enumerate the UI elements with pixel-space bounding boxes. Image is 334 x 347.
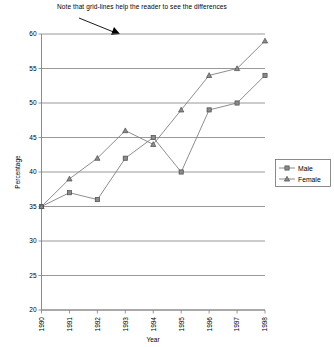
chart-legend[interactable]: MaleFemale bbox=[276, 160, 331, 187]
x-tick-label: 1995 bbox=[178, 317, 185, 332]
y-tick-label: 60 bbox=[29, 30, 37, 37]
data-point-marker bbox=[285, 166, 289, 170]
line-chart: Note that grid-lines help the reader to … bbox=[0, 0, 334, 347]
data-point-marker bbox=[123, 128, 128, 133]
x-tick-label: 1992 bbox=[94, 317, 101, 332]
chart-canvas: 202530354045505560 199019911992199319941… bbox=[0, 0, 334, 347]
y-tick-label: 20 bbox=[29, 306, 37, 313]
series-polyline bbox=[42, 75, 266, 206]
x-tick-label: 1993 bbox=[122, 317, 129, 332]
y-tick-label: 45 bbox=[29, 134, 37, 141]
series-male bbox=[39, 73, 267, 208]
series-female bbox=[39, 38, 268, 208]
x-tick-label: 1998 bbox=[261, 317, 268, 332]
y-tick-label: 55 bbox=[29, 65, 37, 72]
y-tick-label: 40 bbox=[29, 168, 37, 175]
x-axis-title: Year bbox=[146, 336, 160, 343]
x-tick-label: 1997 bbox=[233, 317, 240, 332]
x-tick-label: 1991 bbox=[66, 317, 73, 332]
legend-label-male[interactable]: Male bbox=[298, 165, 313, 172]
data-point-marker bbox=[67, 191, 71, 195]
y-axis-title: Percentage bbox=[14, 155, 22, 189]
data-point-marker bbox=[179, 170, 183, 174]
series-polyline bbox=[42, 41, 266, 207]
x-ticks-group: 199019911992199319941995199619971998 bbox=[38, 310, 269, 331]
data-point-marker bbox=[151, 135, 155, 139]
x-tick-label: 1994 bbox=[150, 317, 157, 332]
data-point-marker bbox=[95, 198, 99, 202]
data-point-marker bbox=[263, 73, 267, 77]
y-tick-label: 25 bbox=[29, 272, 37, 279]
x-tick-label: 1990 bbox=[38, 317, 45, 332]
y-tick-label: 30 bbox=[29, 237, 37, 244]
legend-label-female[interactable]: Female bbox=[298, 176, 321, 183]
data-point-marker bbox=[67, 176, 72, 181]
x-tick-label: 1996 bbox=[206, 317, 213, 332]
annotation-arrow bbox=[79, 18, 120, 35]
data-point-marker bbox=[262, 38, 267, 43]
data-point-marker bbox=[207, 108, 211, 112]
y-tick-label: 35 bbox=[29, 203, 37, 210]
gridlines-group: 202530354045505560 bbox=[29, 30, 265, 313]
data-point-marker bbox=[123, 156, 127, 160]
data-point-marker bbox=[235, 101, 239, 105]
y-tick-label: 50 bbox=[29, 99, 37, 106]
